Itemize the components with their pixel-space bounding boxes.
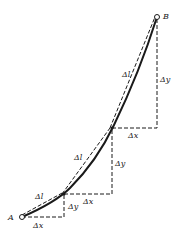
point-A-marker [20,215,25,220]
chord-2 [62,128,110,194]
chord-3 [110,17,155,128]
label-dl-3: Δl [121,70,131,79]
point-B-marker [155,15,160,20]
point-P2-marker [111,127,114,130]
label-dx-2: Δx [82,197,94,206]
legs-2 [64,128,112,194]
label-dx-3: Δx [127,131,139,140]
label-A: A [7,213,14,222]
label-dy-3: Δy [159,75,171,84]
point-P1-marker [63,193,66,196]
curve-AB [22,17,157,217]
diagram-svg: A B Δl Δx Δy Δl Δx Δy Δl Δx Δy [0,0,177,233]
label-dl-2: Δl [73,153,83,162]
label-B: B [162,12,169,21]
label-dx-1: Δx [32,221,44,230]
label-dy-1: Δy [67,202,79,211]
label-dl-1: Δl [34,192,44,201]
legs-3 [112,17,157,128]
label-dy-2: Δy [114,159,126,168]
arc-length-diagram: A B Δl Δx Δy Δl Δx Δy Δl Δx Δy [0,0,177,233]
